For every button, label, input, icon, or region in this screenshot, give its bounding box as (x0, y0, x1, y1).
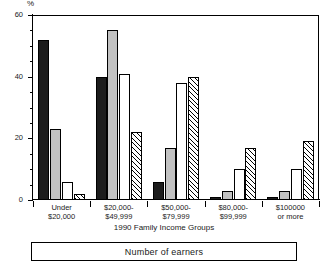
y-axis-major-tick (28, 77, 33, 78)
bar (245, 148, 256, 200)
y-axis-tick-label: 40 (3, 73, 23, 81)
bar (131, 132, 142, 200)
bar (291, 169, 302, 200)
y-axis-tick-label: 0 (3, 196, 23, 204)
bar (234, 169, 245, 200)
y-axis-unit-label: % (27, 0, 34, 8)
bar (96, 77, 107, 200)
y-axis-minor-tick (30, 123, 33, 124)
bar (279, 191, 290, 200)
bar (50, 129, 61, 200)
bar (153, 182, 164, 201)
bar (222, 191, 233, 200)
y-axis-minor-tick (30, 185, 33, 186)
bar (176, 83, 187, 200)
bar (165, 148, 176, 200)
x-axis-category-label-line1: $100000 (253, 203, 327, 212)
y-axis-major-tick (28, 138, 33, 139)
y-axis-tick-label: 20 (3, 134, 23, 142)
bar (74, 194, 85, 200)
y-axis-minor-tick (30, 154, 33, 155)
x-axis-category-label-line2: or more (253, 212, 327, 221)
legend-box: Number of earners (31, 242, 297, 261)
legend-label: Number of earners (125, 247, 203, 257)
x-axis-category-label: $100000or more (253, 203, 327, 221)
bar (188, 77, 199, 200)
bar (119, 74, 130, 200)
y-axis-minor-tick (30, 169, 33, 170)
chart-container: % 0204060 Under$20,000$20,000-$49,999$50… (0, 0, 328, 263)
bar (303, 141, 314, 200)
y-axis-major-tick (28, 15, 33, 16)
y-axis-tick-label: 60 (3, 11, 23, 19)
x-axis-title: 1990 Family Income Groups (0, 223, 328, 232)
bar (38, 40, 49, 200)
y-axis-minor-tick (30, 92, 33, 93)
y-axis-minor-tick (30, 46, 33, 47)
bar (62, 182, 73, 201)
y-axis-minor-tick (30, 30, 33, 31)
y-axis-minor-tick (30, 108, 33, 109)
bar (210, 197, 221, 200)
y-axis-minor-tick (30, 61, 33, 62)
bar (267, 197, 278, 200)
bar (107, 30, 118, 200)
